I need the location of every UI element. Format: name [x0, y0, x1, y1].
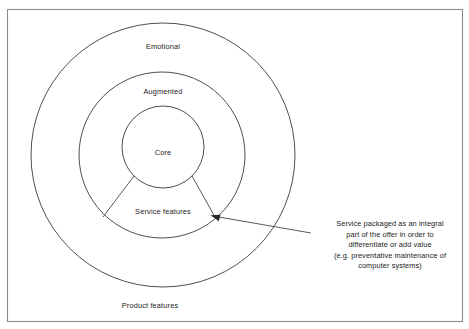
- core-ring-circle: [122, 106, 204, 188]
- callout-note-line-4: (e.g. preventative maintenance of: [314, 251, 466, 262]
- augmented-ring-label: Augmented: [143, 88, 182, 96]
- callout-leader-line: [213, 216, 311, 233]
- service-bracket-left-line: [103, 176, 134, 217]
- callout-arrowhead-icon: [211, 215, 221, 221]
- service-features-label: Service features: [135, 208, 191, 216]
- emotional-ring-label: Emotional: [146, 43, 180, 51]
- service-bracket-right-line: [192, 176, 215, 217]
- callout-note-text: Service packaged as an integral part of …: [314, 219, 466, 272]
- callout-note-line-1: Service packaged as an integral: [314, 219, 466, 230]
- core-ring-label: Core: [155, 149, 172, 157]
- product-levels-figure: Emotional Augmented Core Service feature…: [0, 0, 469, 329]
- callout-note-line-5: computer systems): [314, 261, 466, 272]
- callout-note-line-2: part of the offer in order to: [314, 230, 466, 241]
- callout-note-line-3: differentiate or add value: [314, 240, 466, 251]
- diagram-canvas: [0, 0, 469, 329]
- product-features-label: Product features: [122, 302, 179, 310]
